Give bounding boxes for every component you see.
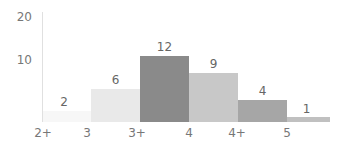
x-tick-3plus: 3+ (122, 126, 152, 140)
bar-5 (238, 100, 287, 122)
bar-3-value: 12 (140, 40, 189, 54)
x-tick-3: 3 (72, 126, 102, 140)
bar-2 (91, 89, 140, 122)
x-tick-4plus: 4+ (222, 126, 252, 140)
histogram-chart: 20 10 2 6 12 9 4 1 2+ 3 3+ 4 4+ 5 (0, 0, 345, 149)
bar-4 (189, 73, 238, 122)
bar-1 (43, 111, 91, 122)
bar-1-value: 2 (40, 95, 88, 109)
x-tick-5: 5 (272, 126, 302, 140)
bar-5-value: 4 (238, 84, 287, 98)
bar-6-value: 1 (282, 102, 331, 116)
bar-4-value: 9 (189, 57, 238, 71)
bar-2-value: 6 (91, 73, 140, 87)
bar-3 (140, 56, 189, 122)
y-tick-10: 10 (4, 53, 32, 67)
x-tick-4: 4 (174, 126, 204, 140)
bar-6 (287, 117, 330, 122)
x-tick-2plus: 2+ (28, 126, 58, 140)
y-tick-20: 20 (4, 10, 32, 24)
